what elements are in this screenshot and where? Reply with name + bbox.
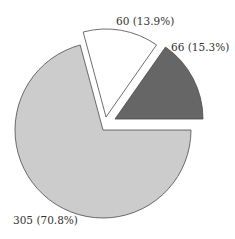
- pie-chart: 60 (13.9%) 66 (15.3%) 305 (70.8%): [0, 0, 235, 239]
- slice-label-305: 305 (70.8%): [13, 214, 78, 226]
- slice-label-60: 60 (13.9%): [116, 15, 174, 27]
- slice-label-66: 66 (15.3%): [171, 41, 229, 53]
